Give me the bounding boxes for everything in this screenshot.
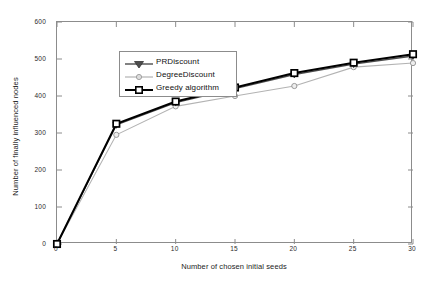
x-tick-label: 20 bbox=[290, 245, 298, 252]
data-point bbox=[410, 60, 415, 65]
x-axis-ticks: 051015202530 bbox=[56, 245, 412, 259]
x-tick-label: 15 bbox=[230, 245, 238, 252]
y-tick-label: 0 bbox=[42, 240, 46, 247]
legend-item-greedy-algorithm: Greedy algorithm bbox=[124, 81, 232, 94]
x-tick-label: 5 bbox=[113, 245, 117, 252]
legend-label: DegreeDiscount bbox=[156, 70, 215, 79]
x-tick-label: 30 bbox=[408, 245, 416, 252]
x-tick-label: 25 bbox=[349, 245, 357, 252]
x-tick-label: 0 bbox=[54, 245, 58, 252]
chart-legend: PRDiscount DegreeDiscount bbox=[119, 51, 237, 97]
legend-marker-square-icon bbox=[124, 82, 154, 94]
data-point bbox=[292, 83, 297, 88]
y-axis-title: Number of finally influenced nodes bbox=[11, 26, 20, 248]
x-axis-title: Number of chosen initial seeds bbox=[56, 262, 412, 271]
y-axis-ticks: 0100200300400500600 bbox=[0, 21, 52, 243]
legend-marker-circle-icon bbox=[124, 69, 154, 81]
data-point bbox=[172, 98, 178, 104]
data-point bbox=[350, 60, 356, 66]
legend-item-prdiscount: PRDiscount bbox=[124, 55, 232, 68]
y-tick-label: 200 bbox=[35, 166, 46, 173]
data-point bbox=[410, 51, 416, 57]
data-point bbox=[113, 121, 119, 127]
y-tick-label: 300 bbox=[35, 129, 46, 136]
x-tick-label: 10 bbox=[171, 245, 179, 252]
figure: 0100200300400500600 Number of finally in… bbox=[0, 0, 439, 289]
y-tick-label: 100 bbox=[35, 203, 46, 210]
y-tick-label: 600 bbox=[35, 18, 46, 25]
y-tick-label: 400 bbox=[35, 92, 46, 99]
legend-label: Greedy algorithm bbox=[156, 83, 219, 92]
legend-item-degreediscount: DegreeDiscount bbox=[124, 68, 232, 81]
data-point bbox=[114, 132, 119, 137]
data-point bbox=[291, 70, 297, 76]
legend-marker-triangle-down-icon bbox=[124, 56, 154, 68]
y-tick-label: 500 bbox=[35, 55, 46, 62]
legend-label: PRDiscount bbox=[156, 57, 199, 66]
plot-area: PRDiscount DegreeDiscount bbox=[56, 21, 412, 243]
